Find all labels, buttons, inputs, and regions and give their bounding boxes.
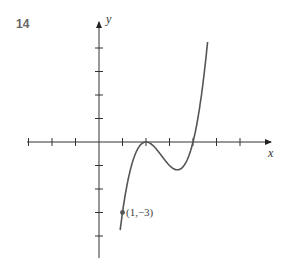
point-label: (1,−3) [126,206,154,219]
marked-point [120,210,125,215]
x-axis-label: x [267,146,274,160]
y-axis-label: y [105,12,112,26]
graph: x y (1,−3) [0,0,288,273]
function-curve [120,42,207,230]
